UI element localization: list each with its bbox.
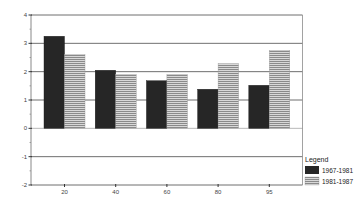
x-tick-label: 95 <box>266 189 273 195</box>
bar-1981-1987-60 <box>167 75 188 129</box>
bar-1967-1981-60 <box>146 81 167 129</box>
legend-swatch-1981-1987 <box>305 177 319 185</box>
y-tick-label: 1 <box>24 97 28 103</box>
bar-1967-1981-40 <box>95 70 116 128</box>
x-tick-label: 80 <box>215 189 222 195</box>
bars <box>44 36 290 128</box>
y-tick-label: 3 <box>24 40 28 46</box>
y-tick-label: 0 <box>24 125 28 131</box>
y-tick-label: 2 <box>24 69 28 75</box>
bar-1967-1981-80 <box>198 89 219 128</box>
legend-swatch-1967-1981 <box>305 166 319 174</box>
y-tick-label: 4 <box>24 12 28 18</box>
legend-label-1967-1981: 1967-1981 <box>322 167 353 174</box>
x-tick-label: 40 <box>112 189 119 195</box>
x-axis-ticks: 2040608095 <box>61 184 273 195</box>
x-tick-label: 60 <box>164 189 171 195</box>
y-tick-label: -2 <box>22 182 28 188</box>
x-tick-label: 20 <box>61 189 68 195</box>
legend-title: Legend <box>305 156 328 164</box>
legend: Legend 1967-1981 1981-1987 <box>305 156 353 185</box>
legend-label-1981-1987: 1981-1987 <box>322 178 353 185</box>
bar-1981-1987-95 <box>269 50 290 128</box>
bar-1981-1987-40 <box>116 75 137 129</box>
bar-chart: -2-101234 2040608095 Legend 1967-1981 19… <box>0 0 358 221</box>
y-tick-label: -1 <box>22 154 28 160</box>
bar-1967-1981-95 <box>249 85 269 128</box>
bar-1981-1987-80 <box>218 64 239 129</box>
y-axis-ticks: -2-101234 <box>22 12 32 188</box>
bar-1981-1987-20 <box>65 55 86 129</box>
bar-1967-1981-20 <box>44 36 65 128</box>
